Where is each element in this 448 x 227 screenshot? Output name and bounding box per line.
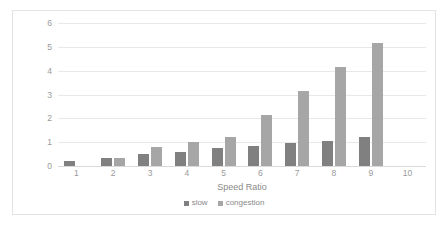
x-axis-tick-label: 1 bbox=[58, 169, 95, 178]
bar-slow-2[interactable] bbox=[101, 158, 112, 166]
y-axis-tick-label: 3 bbox=[47, 90, 52, 99]
bar-slow-3[interactable] bbox=[138, 154, 149, 166]
bars-layer bbox=[58, 23, 426, 166]
bar-group bbox=[168, 23, 205, 166]
bar-slow-4[interactable] bbox=[175, 152, 186, 166]
bar-congestion-7[interactable] bbox=[298, 91, 309, 166]
y-axis-tick-label: 4 bbox=[47, 66, 52, 75]
bar-group bbox=[205, 23, 242, 166]
bar-group bbox=[389, 23, 426, 166]
bar-congestion-2[interactable] bbox=[114, 158, 125, 166]
bar-slow-7[interactable] bbox=[285, 143, 296, 166]
y-axis-tick-label: 2 bbox=[47, 114, 52, 123]
y-axis-tick-label: 1 bbox=[47, 138, 52, 147]
bar-slow-5[interactable] bbox=[212, 148, 223, 166]
x-axis-tick-label: 5 bbox=[205, 169, 242, 178]
legend-entry-slow[interactable]: slow bbox=[184, 199, 208, 207]
bar-congestion-6[interactable] bbox=[261, 115, 272, 166]
gridline-0 bbox=[58, 166, 426, 167]
bar-slow-1[interactable] bbox=[64, 161, 75, 166]
bar-group bbox=[58, 23, 95, 166]
x-axis-tick-label: 7 bbox=[279, 169, 316, 178]
plot-area: 0123456 bbox=[58, 23, 426, 166]
y-axis-tick-label: 6 bbox=[47, 19, 52, 28]
bar-congestion-5[interactable] bbox=[225, 137, 236, 166]
bar-slow-6[interactable] bbox=[248, 146, 259, 166]
chart-legend: slowcongestion bbox=[13, 199, 435, 207]
x-axis-tick-label: 9 bbox=[352, 169, 389, 178]
bar-group bbox=[352, 23, 389, 166]
bar-congestion-9[interactable] bbox=[372, 43, 383, 166]
x-axis-tick-label: 10 bbox=[389, 169, 426, 178]
x-axis-title: Speed Ratio bbox=[58, 182, 426, 192]
bar-group bbox=[132, 23, 169, 166]
bar-slow-8[interactable] bbox=[322, 141, 333, 166]
chart-container: 0123456 12345678910 Speed Ratio slowcong… bbox=[12, 10, 436, 215]
bar-congestion-4[interactable] bbox=[188, 142, 199, 166]
x-axis-tick-label: 2 bbox=[95, 169, 132, 178]
legend-swatch-icon bbox=[184, 201, 189, 206]
bar-congestion-8[interactable] bbox=[335, 67, 346, 166]
legend-label: slow bbox=[192, 199, 208, 207]
bar-group bbox=[279, 23, 316, 166]
y-axis-tick-label: 0 bbox=[47, 162, 52, 171]
x-axis-tick-label: 6 bbox=[242, 169, 279, 178]
bar-congestion-3[interactable] bbox=[151, 147, 162, 166]
x-axis-tick-label: 4 bbox=[168, 169, 205, 178]
x-axis-tick-labels: 12345678910 bbox=[58, 169, 426, 178]
legend-label: congestion bbox=[226, 199, 265, 207]
x-axis-tick-label: 8 bbox=[316, 169, 353, 178]
y-axis-tick-label: 5 bbox=[47, 43, 52, 52]
x-axis-tick-label: 3 bbox=[132, 169, 169, 178]
bar-group bbox=[95, 23, 132, 166]
bar-group bbox=[242, 23, 279, 166]
bar-slow-9[interactable] bbox=[359, 137, 370, 166]
bar-group bbox=[316, 23, 353, 166]
legend-entry-congestion[interactable]: congestion bbox=[218, 199, 265, 207]
legend-swatch-icon bbox=[218, 201, 223, 206]
